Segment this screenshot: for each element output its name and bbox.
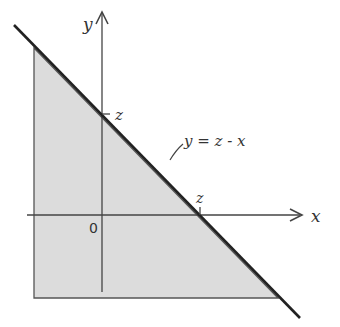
equation-label: y = z - x (183, 132, 246, 150)
x-axis-label: x (311, 206, 321, 226)
origin-label: 0 (89, 220, 98, 236)
equation-leader-line (170, 144, 183, 160)
shaded-region (34, 48, 278, 298)
diagram-canvas: y x 0 z z y = z - x (0, 0, 340, 327)
y-axis-label: y (82, 14, 93, 34)
y-intercept-label: z (114, 106, 123, 124)
x-intercept-label: z (195, 190, 204, 206)
